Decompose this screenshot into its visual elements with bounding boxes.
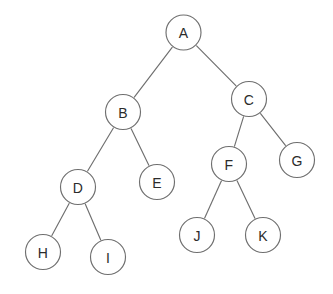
tree-node-f[interactable]: F <box>212 147 247 182</box>
tree-node-g[interactable]: G <box>280 143 315 178</box>
node-label-j: J <box>193 228 200 244</box>
node-label-i: I <box>106 250 110 266</box>
tree-node-c[interactable]: C <box>232 82 267 117</box>
node-label-e: E <box>152 175 162 191</box>
node-label-b: B <box>118 105 128 121</box>
node-label-f: F <box>225 157 234 173</box>
tree-node-d[interactable]: D <box>61 170 96 205</box>
node-label-h: H <box>38 245 48 261</box>
binary-tree-diagram: ABCDEFGHIJK <box>0 0 333 294</box>
tree-node-e[interactable]: E <box>140 165 175 200</box>
node-label-d: D <box>73 180 83 196</box>
tree-node-a[interactable]: A <box>166 15 201 50</box>
tree-node-k[interactable]: K <box>246 218 281 253</box>
node-label-a: A <box>179 25 189 41</box>
node-label-g: G <box>291 153 302 169</box>
tree-node-h[interactable]: H <box>26 235 61 270</box>
node-label-c: C <box>244 92 254 108</box>
node-label-k: K <box>258 228 268 244</box>
tree-node-j[interactable]: J <box>180 218 215 253</box>
tree-node-b[interactable]: B <box>106 95 141 130</box>
tree-node-i[interactable]: I <box>91 240 126 275</box>
